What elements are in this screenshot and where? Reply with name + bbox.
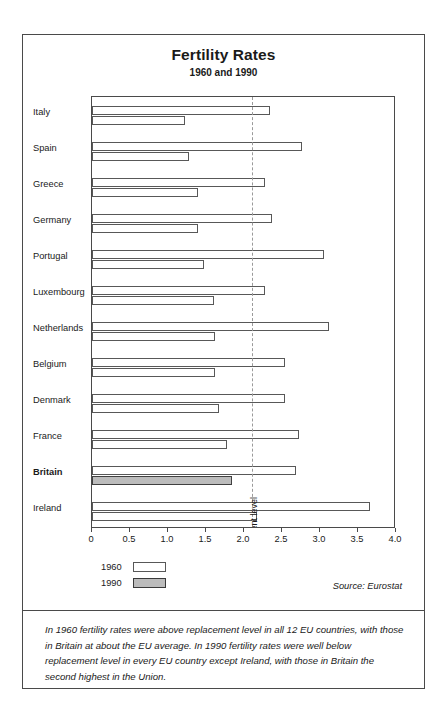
x-tick-label-3.5: 3.5: [351, 534, 364, 544]
x-tick-label-4.0: 4.0: [389, 534, 402, 544]
category-label-portugal: Portugal: [33, 251, 91, 261]
x-tick-3.5: [357, 528, 358, 532]
category-label-denmark: Denmark: [33, 395, 91, 405]
category-label-italy: Italy: [33, 107, 91, 117]
x-tick-3.0: [319, 528, 320, 532]
category-label-spain: Spain: [33, 143, 91, 153]
legend-swatch-1990: [133, 578, 166, 588]
x-tick-2.5: [281, 528, 282, 532]
caption-divider: [23, 610, 424, 611]
bar-germany-1990: [92, 224, 198, 233]
category-label-belgium: Belgium: [33, 359, 91, 369]
bar-luxembourg-1960: [92, 286, 265, 295]
bar-denmark-1960: [92, 394, 285, 403]
bar-greece-1990: [92, 188, 198, 197]
bar-italy-1990: [92, 116, 185, 125]
legend-label-1960: 1960: [101, 562, 133, 572]
bar-luxembourg-1990: [92, 296, 214, 305]
x-tick-label-2.0: 2.0: [237, 534, 250, 544]
replacement-level-label: Replacement level: [249, 497, 259, 528]
x-tick-label-1.5: 1.5: [199, 534, 212, 544]
chart-subtitle: 1960 and 1990: [23, 67, 424, 79]
bar-spain-1960: [92, 142, 302, 151]
bar-netherlands-1990: [92, 332, 215, 341]
bar-france-1990: [92, 440, 227, 449]
bar-france-1960: [92, 430, 299, 439]
x-tick-label-0.5: 0.5: [123, 534, 136, 544]
replacement-level-line: [252, 97, 253, 527]
plot-region: ItalySpainGreeceGermanyPortugalLuxembour…: [23, 96, 426, 556]
x-tick-label-1.0: 1.0: [161, 534, 174, 544]
bar-britain-1960: [92, 466, 296, 475]
x-tick-1.5: [205, 528, 206, 532]
x-tick-4.0: [395, 528, 396, 532]
bar-germany-1960: [92, 214, 272, 223]
x-tick-2.0: [243, 528, 244, 532]
bar-ireland-1960: [92, 502, 370, 511]
x-tick-label-3.0: 3.0: [313, 534, 326, 544]
legend: 1960 1990: [101, 560, 221, 592]
category-label-ireland: Ireland: [33, 503, 91, 513]
bar-belgium-1990: [92, 368, 215, 377]
chart-title: Fertility Rates: [23, 46, 424, 64]
plot-area: Replacement level: [91, 96, 395, 528]
bar-ireland-1990: [92, 512, 257, 521]
x-axis: 00.51.01.52.02.53.03.54.0: [91, 528, 395, 554]
category-label-britain: Britain: [33, 467, 91, 477]
x-tick-1.0: [167, 528, 168, 532]
bar-spain-1990: [92, 152, 189, 161]
source-note: Source: Eurostat: [333, 581, 402, 591]
category-label-luxembourg: Luxembourg: [33, 287, 91, 297]
bar-belgium-1960: [92, 358, 285, 367]
bar-portugal-1960: [92, 250, 324, 259]
x-tick-label-2.5: 2.5: [275, 534, 288, 544]
category-label-germany: Germany: [33, 215, 91, 225]
x-tick-label-0: 0: [88, 534, 93, 544]
bar-italy-1960: [92, 106, 270, 115]
bar-greece-1960: [92, 178, 265, 187]
legend-label-1990: 1990: [101, 578, 133, 588]
x-tick-0: [91, 528, 92, 532]
x-tick-0.5: [129, 528, 130, 532]
bar-denmark-1990: [92, 404, 219, 413]
legend-swatch-1960: [133, 562, 166, 572]
title-block: Fertility Rates 1960 and 1990: [23, 35, 424, 78]
figure-frame: Fertility Rates 1960 and 1990 ItalySpain…: [22, 34, 425, 689]
bar-britain-1990: [92, 476, 232, 485]
category-label-greece: Greece: [33, 179, 91, 189]
caption-text: In 1960 fertility rates were above repla…: [45, 622, 404, 684]
legend-item-1990: 1990: [101, 576, 221, 590]
legend-item-1960: 1960: [101, 560, 221, 574]
bar-netherlands-1960: [92, 322, 329, 331]
category-axis-labels: ItalySpainGreeceGermanyPortugalLuxembour…: [33, 96, 91, 528]
category-label-france: France: [33, 431, 91, 441]
bar-portugal-1990: [92, 260, 204, 269]
category-label-netherlands: Netherlands: [33, 323, 91, 333]
